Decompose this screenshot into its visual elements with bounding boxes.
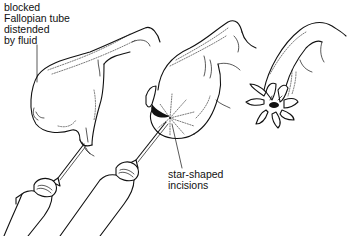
incised-tube-drawing xyxy=(146,21,256,168)
syringe-1 xyxy=(4,144,86,236)
label-line: by fluid xyxy=(4,35,70,46)
distended-tube-drawing xyxy=(31,27,160,156)
label-blocked-tube: blocked Fallopian tube distended by flui… xyxy=(4,2,70,46)
opened-petals xyxy=(246,83,298,128)
label-leader-line-star xyxy=(172,124,182,168)
syringe-2 xyxy=(60,122,168,236)
label-star-shaped-incisions: star-shaped incisions xyxy=(168,169,223,191)
label-line: incisions xyxy=(168,180,223,191)
opened-tube-drawing xyxy=(246,23,346,128)
illustration-canvas: blocked Fallopian tube distended by flui… xyxy=(0,0,351,236)
